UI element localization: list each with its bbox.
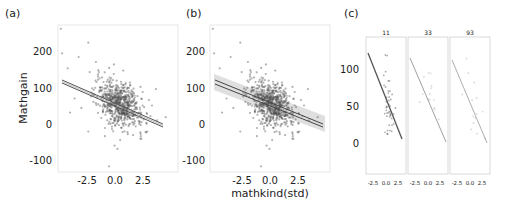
data-point [111, 126, 113, 128]
facet-33: 33 -2.5 0.0 2.5 [408, 29, 448, 186]
data-point [433, 99, 435, 101]
data-point [146, 113, 148, 115]
data-point [112, 79, 114, 81]
data-point [129, 85, 131, 87]
data-point [258, 110, 260, 112]
data-point [283, 89, 285, 91]
data-point [97, 112, 99, 114]
data-point [277, 82, 279, 84]
data-point [266, 145, 268, 147]
data-point [285, 104, 287, 106]
data-point [134, 94, 136, 96]
scatter-points [461, 58, 485, 139]
data-point [386, 112, 388, 114]
data-point [122, 125, 124, 127]
data-point [87, 130, 89, 132]
data-point [280, 87, 282, 89]
data-point [104, 91, 106, 93]
data-point [252, 117, 254, 119]
data-point [99, 87, 101, 89]
data-point [291, 131, 293, 133]
data-point [385, 109, 387, 111]
data-point [431, 85, 433, 87]
data-point [97, 69, 99, 71]
data-point [297, 131, 299, 133]
data-point [136, 95, 138, 97]
data-point [119, 139, 121, 141]
data-point [126, 131, 128, 133]
data-point [268, 122, 270, 124]
data-point [135, 108, 137, 110]
y-tick-label: -100 [29, 155, 52, 166]
data-point [389, 80, 391, 82]
data-point [143, 106, 145, 108]
data-point [303, 104, 305, 106]
data-point [278, 118, 280, 120]
x-tick-label: 2.5 [478, 180, 487, 186]
data-point [101, 77, 103, 79]
data-point [317, 116, 319, 118]
x-tick-label: -2.5 [368, 180, 379, 186]
data-point [271, 89, 273, 91]
data-point [266, 124, 268, 126]
y-tick-label: 100 [33, 83, 52, 94]
data-point [239, 42, 241, 44]
data-point [383, 74, 385, 76]
data-point [129, 117, 131, 119]
data-point [249, 69, 251, 71]
data-point [106, 108, 108, 110]
data-point [284, 124, 286, 126]
data-point [133, 104, 135, 106]
data-point [127, 133, 129, 135]
data-point [434, 109, 436, 111]
data-point [100, 89, 102, 91]
data-point [388, 100, 390, 102]
data-point [272, 127, 274, 129]
data-point [388, 124, 390, 126]
data-point [123, 97, 125, 99]
data-point [116, 148, 118, 150]
data-point [105, 93, 107, 95]
data-point [391, 118, 393, 120]
data-point [104, 105, 106, 107]
data-point [97, 73, 99, 75]
data-point [108, 67, 110, 69]
x-tick-label: -2.5 [410, 180, 421, 186]
data-point [127, 103, 129, 105]
data-point [145, 131, 147, 133]
data-point [283, 93, 285, 95]
data-point [140, 112, 142, 114]
data-point [134, 120, 136, 122]
data-point [272, 83, 274, 85]
data-point [290, 123, 292, 125]
data-point [276, 116, 278, 118]
data-point [272, 117, 274, 119]
data-point [128, 125, 130, 127]
data-point [110, 82, 112, 84]
data-point [284, 134, 286, 136]
y-tick-label: -100 [182, 155, 205, 166]
data-point [387, 92, 389, 94]
data-point [135, 125, 137, 127]
data-point [111, 110, 113, 112]
data-point [97, 75, 99, 77]
panel-label-b: (b) [186, 7, 202, 20]
data-point [384, 131, 386, 133]
y-tick-label: 50 [346, 101, 359, 112]
fit-line [410, 58, 446, 142]
data-point [256, 71, 258, 73]
facet-frame [408, 37, 448, 174]
data-point [126, 88, 128, 90]
data-point [104, 127, 106, 129]
data-point [140, 135, 142, 137]
data-point [94, 80, 96, 82]
data-point [263, 126, 265, 128]
data-point [264, 130, 266, 132]
data-point [281, 123, 283, 125]
data-point [275, 119, 277, 121]
data-point [125, 82, 127, 84]
data-point [121, 131, 123, 133]
data-point [476, 97, 478, 99]
data-point [254, 108, 256, 110]
data-point [288, 117, 290, 119]
